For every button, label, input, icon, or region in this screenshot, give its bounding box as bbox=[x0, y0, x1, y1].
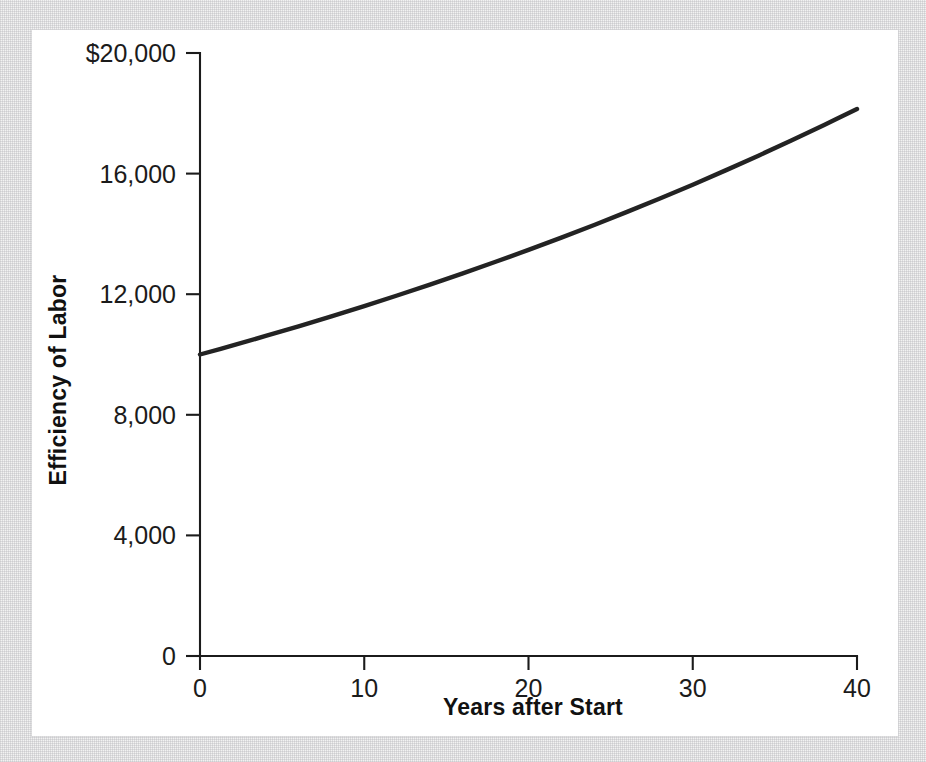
x-axis-ticks bbox=[200, 656, 857, 670]
line-chart: 04,0008,00012,00016,000$20,000 010203040… bbox=[0, 0, 926, 762]
y-tick-label: 4,000 bbox=[113, 521, 176, 549]
y-tick-label: $20,000 bbox=[86, 39, 176, 67]
y-axis-group: 04,0008,00012,00016,000$20,000 bbox=[86, 39, 200, 670]
efficiency-of-labor-curve bbox=[200, 109, 857, 354]
y-tick-label: 16,000 bbox=[100, 160, 176, 188]
y-axis-title: Efficiency of Labor bbox=[45, 275, 71, 486]
y-tick-label: 8,000 bbox=[113, 401, 176, 429]
y-axis-tick-labels: 04,0008,00012,00016,000$20,000 bbox=[86, 39, 176, 670]
x-tick-label: 40 bbox=[843, 674, 871, 702]
y-tick-label: 0 bbox=[162, 642, 176, 670]
x-axis-title: Years after Start bbox=[443, 694, 623, 720]
x-tick-label: 30 bbox=[679, 674, 707, 702]
x-tick-label: 0 bbox=[193, 674, 207, 702]
y-tick-label: 12,000 bbox=[100, 280, 176, 308]
plot-series-group bbox=[200, 109, 857, 354]
x-tick-label: 10 bbox=[350, 674, 378, 702]
